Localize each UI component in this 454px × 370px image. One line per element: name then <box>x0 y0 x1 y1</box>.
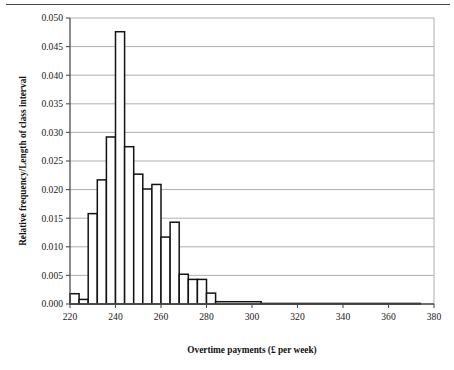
page-root: 0.0000.0050.0100.0150.0200.0250.0300.035… <box>0 0 454 370</box>
x-axis-ticks-group: 220240260280300320340360380 <box>63 304 442 322</box>
histogram-bar <box>106 137 115 304</box>
x-axis-tick-label: 320 <box>290 311 305 322</box>
y-axis-tick-label: 0.020 <box>41 184 63 195</box>
y-axis-tick-label: 0.025 <box>41 155 63 166</box>
y-axis-tick-label: 0.040 <box>41 70 63 81</box>
x-axis-tick-label: 340 <box>336 311 351 322</box>
x-axis-tick-label: 380 <box>427 311 442 322</box>
x-axis-tick-label: 220 <box>63 311 78 322</box>
histogram-bar <box>97 180 106 304</box>
histogram-bar <box>179 274 188 304</box>
histogram-bar <box>116 32 125 304</box>
histogram-figure: 0.0000.0050.0100.0150.0200.0250.0300.035… <box>0 0 454 370</box>
y-axis-tick-label: 0.015 <box>41 213 63 224</box>
histogram-chart: 0.0000.0050.0100.0150.0200.0250.0300.035… <box>0 0 454 370</box>
y-axis-tick-label: 0.010 <box>41 241 63 252</box>
y-axis-tick-label: 0.050 <box>41 12 63 23</box>
histogram-bar <box>143 189 152 304</box>
y-axis-tick-label: 0.045 <box>41 41 63 52</box>
x-axis-tick-label: 300 <box>245 311 260 322</box>
histogram-bar <box>88 214 97 304</box>
x-axis-tick-label: 240 <box>108 311 123 322</box>
histogram-bar <box>125 147 134 304</box>
x-axis-tick-label: 280 <box>199 311 214 322</box>
histogram-bar <box>79 299 88 304</box>
x-axis-tick-label: 260 <box>154 311 169 322</box>
histogram-bar <box>170 222 179 304</box>
histogram-bar <box>207 293 216 304</box>
y-axis-title: Relative frequency/Length of class inter… <box>18 76 28 246</box>
y-axis-tick-label: 0.030 <box>41 127 63 138</box>
histogram-bar <box>134 174 143 304</box>
histogram-bar <box>70 294 79 304</box>
histogram-bar <box>152 184 161 304</box>
histogram-bar <box>161 237 170 304</box>
y-axis-ticks-group: 0.0000.0050.0100.0150.0200.0250.0300.035… <box>41 12 70 309</box>
histogram-bar <box>188 279 197 304</box>
histogram-bar <box>197 279 206 304</box>
x-axis-title: Overtime payments (£ per week) <box>187 345 316 356</box>
y-axis-tick-label: 0.005 <box>41 270 63 281</box>
y-axis-tick-label: 0.035 <box>41 98 63 109</box>
x-axis-tick-label: 360 <box>381 311 396 322</box>
y-axis-tick-label: 0.000 <box>41 298 63 309</box>
